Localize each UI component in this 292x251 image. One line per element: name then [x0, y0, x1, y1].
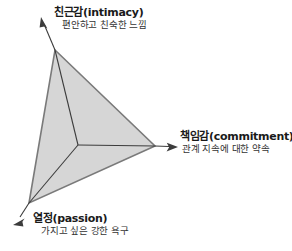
label-commitment-subtitle: 관계 지속에 대한 약속 [180, 143, 292, 155]
diagram-canvas: 친근감(intimacy) 편안하고 친숙한 느낌 책임감(commitment… [0, 0, 292, 251]
label-passion: 열정(passion) 가지고 싶은 강한 욕구 [33, 212, 129, 237]
label-intimacy-title: 친근감(intimacy) [54, 6, 147, 19]
arrow-shaft-commitment [155, 146, 169, 147]
arrow-shaft-passion [20, 203, 29, 217]
label-passion-title: 열정(passion) [33, 212, 129, 225]
arrowhead-intimacy-icon [40, 17, 48, 29]
label-intimacy: 친근감(intimacy) 편안하고 친숙한 느낌 [54, 6, 147, 31]
arrowhead-commitment-icon [167, 143, 178, 152]
label-commitment: 책임감(commitment) 관계 지속에 대한 약속 [180, 130, 292, 155]
label-passion-subtitle: 가지고 싶은 강한 욕구 [33, 225, 129, 237]
arrowhead-passion-icon [13, 219, 25, 227]
label-intimacy-subtitle: 편안하고 친숙한 느낌 [54, 19, 147, 31]
label-commitment-title: 책임감(commitment) [180, 130, 292, 143]
